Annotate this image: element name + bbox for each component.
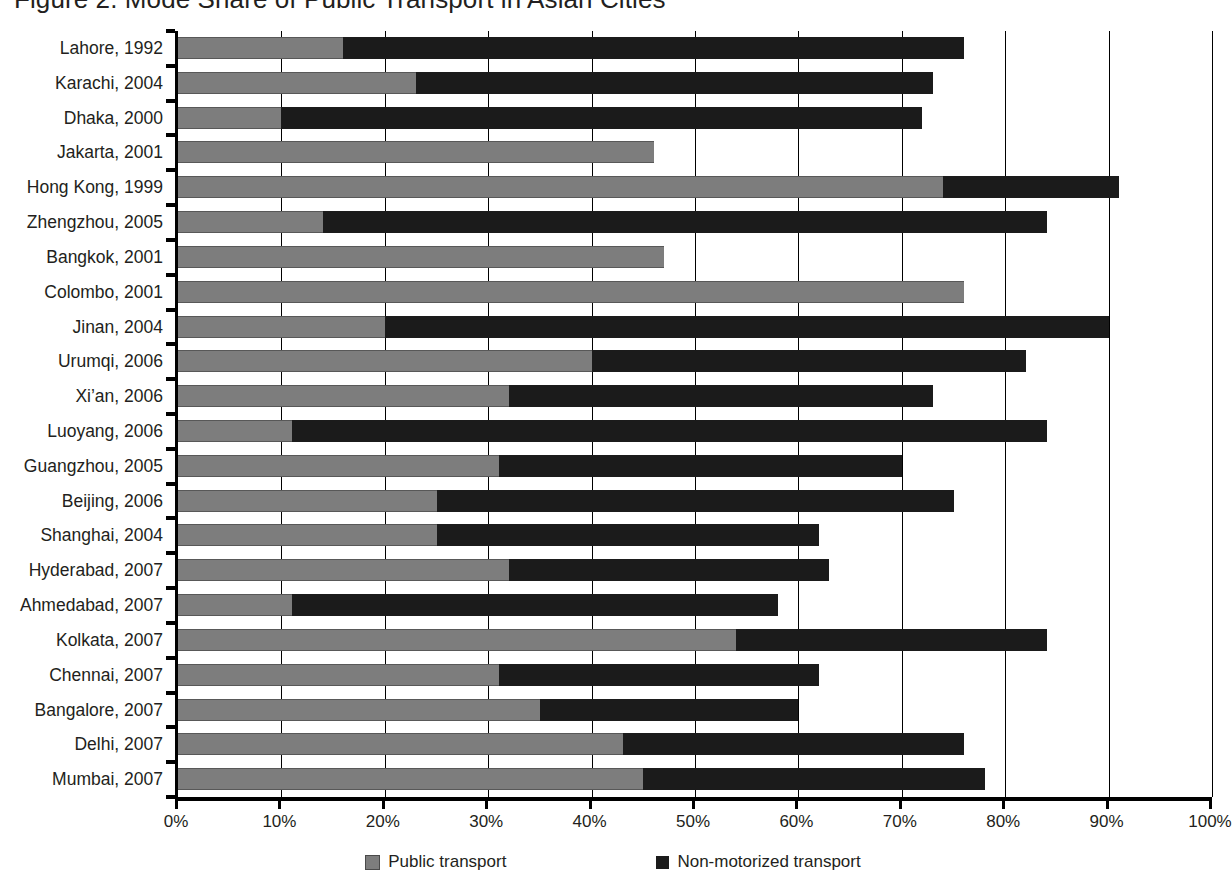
bar-segment-non-motorized[interactable]	[943, 176, 1119, 198]
bar-row[interactable]	[178, 449, 1212, 484]
bar-segment-non-motorized[interactable]	[592, 350, 1026, 372]
bar-row[interactable]	[178, 344, 1212, 379]
bar-row[interactable]	[178, 623, 1212, 658]
bar-segment-non-motorized[interactable]	[643, 768, 984, 790]
legend-item[interactable]: Non-motorized transport	[656, 849, 860, 875]
x-axis-tick	[175, 797, 178, 809]
bar-segment-public-transport[interactable]	[178, 37, 343, 59]
x-axis-label: 50%	[676, 812, 710, 832]
bar-segment-public-transport[interactable]	[178, 490, 437, 512]
bar-row[interactable]	[178, 101, 1212, 136]
x-axis-label: 70%	[883, 812, 917, 832]
bar-segment-public-transport[interactable]	[178, 455, 499, 477]
bar-segment-public-transport[interactable]	[178, 559, 509, 581]
bar-row[interactable]	[178, 693, 1212, 728]
bar-segment-non-motorized[interactable]	[323, 211, 1047, 233]
bar-segment-non-motorized[interactable]	[499, 664, 820, 686]
bar-segment-non-motorized[interactable]	[499, 455, 902, 477]
bar-segment-public-transport[interactable]	[178, 211, 323, 233]
bar-segment-non-motorized[interactable]	[623, 733, 964, 755]
y-axis-label: Lahore, 1992	[60, 31, 163, 66]
bar-segment-public-transport[interactable]	[178, 385, 509, 407]
bar-track	[178, 211, 1047, 233]
y-axis-label: Zhengzhou, 2005	[27, 205, 163, 240]
bar-row[interactable]	[178, 275, 1212, 310]
bar-row[interactable]	[178, 240, 1212, 275]
x-axis-label: 30%	[469, 812, 503, 832]
y-axis-label: Urumqi, 2006	[58, 344, 163, 379]
bar-track	[178, 559, 829, 581]
bar-segment-public-transport[interactable]	[178, 246, 664, 268]
x-axis-tick	[1106, 797, 1109, 809]
bar-row[interactable]	[178, 762, 1212, 797]
bar-segment-non-motorized[interactable]	[292, 420, 1047, 442]
bar-segment-public-transport[interactable]	[178, 107, 281, 129]
y-axis-tick	[166, 168, 175, 172]
bar-segment-non-motorized[interactable]	[540, 699, 799, 721]
y-axis-label: Bangkok, 2001	[46, 240, 163, 275]
bar-segment-non-motorized[interactable]	[437, 524, 820, 546]
bar-segment-non-motorized[interactable]	[385, 316, 1109, 338]
x-axis-tick	[899, 797, 902, 809]
bar-row[interactable]	[178, 727, 1212, 762]
bar-segment-non-motorized[interactable]	[292, 594, 778, 616]
bar-segment-public-transport[interactable]	[178, 768, 643, 790]
gridline	[1212, 31, 1213, 797]
bar-rows	[178, 31, 1212, 797]
bar-row[interactable]	[178, 31, 1212, 66]
y-axis-tick	[166, 308, 175, 312]
bar-segment-non-motorized[interactable]	[509, 385, 933, 407]
legend-item[interactable]: Public transport	[365, 849, 506, 875]
bar-segment-public-transport[interactable]	[178, 316, 385, 338]
bar-row[interactable]	[178, 553, 1212, 588]
bar-row[interactable]	[178, 658, 1212, 693]
bar-row[interactable]	[178, 379, 1212, 414]
x-axis-tick	[795, 797, 798, 809]
bar-segment-non-motorized[interactable]	[416, 72, 933, 94]
bar-segment-public-transport[interactable]	[178, 664, 499, 686]
y-axis-label: Guangzhou, 2005	[24, 449, 163, 484]
legend-label: Public transport	[388, 852, 506, 872]
x-axis-label: 60%	[779, 812, 813, 832]
bar-segment-public-transport[interactable]	[178, 72, 416, 94]
bar-row[interactable]	[178, 135, 1212, 170]
bar-segment-public-transport[interactable]	[178, 733, 623, 755]
y-axis-label: Jinan, 2004	[73, 310, 164, 345]
bar-row[interactable]	[178, 205, 1212, 240]
y-axis-tick	[166, 656, 175, 660]
y-axis-label: Delhi, 2007	[74, 727, 163, 762]
bar-segment-public-transport[interactable]	[178, 629, 736, 651]
bar-row[interactable]	[178, 310, 1212, 345]
bar-segment-non-motorized[interactable]	[736, 629, 1046, 651]
bar-segment-public-transport[interactable]	[178, 594, 292, 616]
y-axis-tick	[166, 64, 175, 68]
bar-row[interactable]	[178, 170, 1212, 205]
y-axis-tick	[166, 99, 175, 103]
x-axis-tick	[1002, 797, 1005, 809]
y-axis-label: Jakarta, 2001	[57, 135, 163, 170]
bar-track	[178, 246, 664, 268]
bar-row[interactable]	[178, 484, 1212, 519]
y-axis-label: Colombo, 2001	[44, 275, 163, 310]
bar-segment-non-motorized[interactable]	[281, 107, 922, 129]
bar-segment-public-transport[interactable]	[178, 699, 540, 721]
bar-segment-public-transport[interactable]	[178, 350, 592, 372]
bar-segment-public-transport[interactable]	[178, 176, 943, 198]
bar-row[interactable]	[178, 66, 1212, 101]
chart-legend: Public transportNon-motorized transport	[0, 849, 1226, 875]
y-axis-tick	[166, 621, 175, 625]
x-axis-tick	[278, 797, 281, 809]
bar-segment-non-motorized[interactable]	[343, 37, 963, 59]
bar-segment-non-motorized[interactable]	[509, 559, 830, 581]
bar-segment-public-transport[interactable]	[178, 420, 292, 442]
bar-segment-public-transport[interactable]	[178, 524, 437, 546]
bar-row[interactable]	[178, 414, 1212, 449]
bar-segment-public-transport[interactable]	[178, 281, 964, 303]
bar-row[interactable]	[178, 518, 1212, 553]
bar-segment-public-transport[interactable]	[178, 141, 654, 163]
bar-segment-non-motorized[interactable]	[437, 490, 954, 512]
y-axis-tick	[166, 586, 175, 590]
bar-row[interactable]	[178, 588, 1212, 623]
y-axis-label: Bangalore, 2007	[35, 693, 163, 728]
